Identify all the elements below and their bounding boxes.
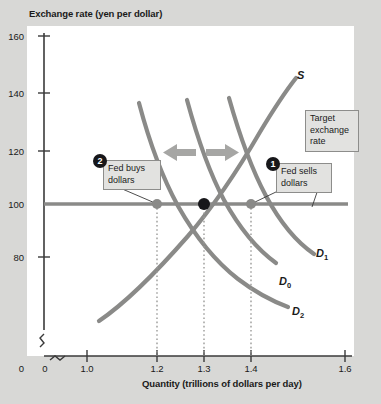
- target-rate-line1: Target: [310, 113, 354, 125]
- shift-right-arrow: [206, 144, 239, 161]
- chart-graphics: [0, 0, 381, 404]
- curve-label-s: S: [297, 69, 304, 81]
- badge-2: 2: [93, 154, 107, 168]
- fed-sells-point: [246, 199, 256, 209]
- curve-label-d0: D0: [279, 275, 291, 290]
- target-rate-line3: rate: [310, 136, 354, 148]
- exchange-rate-chart-figure: Exchange rate (yen per dollar) Quantity …: [0, 0, 381, 404]
- callout-fed-sells-dollars: Fed sells dollars: [276, 163, 332, 193]
- target-rate-line2: exchange: [310, 125, 354, 137]
- equilibrium-point: [198, 198, 210, 210]
- curve-label-d1: D1: [316, 247, 328, 262]
- shift-left-arrow: [163, 144, 196, 161]
- leader-line-fed-buys: [120, 188, 155, 203]
- fed-buys-point: [152, 199, 162, 209]
- fed-sells-line1: Fed sells: [281, 166, 327, 178]
- callout-target-exchange-rate: Target exchange rate: [305, 110, 359, 152]
- callout-fed-buys-dollars: Fed buys dollars: [103, 160, 161, 190]
- fed-buys-line2: dollars: [108, 175, 156, 187]
- badge-1: 1: [266, 157, 280, 171]
- curve-label-d2: D2: [292, 305, 304, 320]
- fed-buys-line1: Fed buys: [108, 163, 156, 175]
- fed-sells-line2: dollars: [281, 178, 327, 190]
- y-axis-break-mark: [40, 334, 44, 347]
